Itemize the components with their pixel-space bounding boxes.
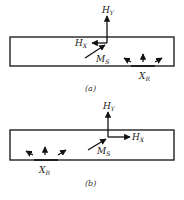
hy-label-b: HY xyxy=(102,101,116,112)
ms-label-a: MS xyxy=(95,54,109,65)
xr-label-b: XR xyxy=(38,165,50,176)
force-diagram: HY HX MS XR (a) HY HX MS xyxy=(0,0,184,200)
xr-arrows-b xyxy=(26,147,66,160)
panel-a: HY HX MS XR (a) xyxy=(10,5,174,93)
hy-label-a: HY xyxy=(101,5,115,16)
hx-label-b: HX xyxy=(131,132,145,143)
hx-label-a: HX xyxy=(74,38,88,49)
caption-b: (b) xyxy=(85,179,96,188)
ms-label-b: MS xyxy=(96,146,110,157)
panel-b: HY HX MS XR (b) xyxy=(10,101,174,188)
body-rectangle-a xyxy=(10,37,174,66)
xr-arrows-a xyxy=(124,54,162,66)
xr-label-a: XR xyxy=(138,71,150,82)
caption-a: (a) xyxy=(85,84,96,93)
body-rectangle-b xyxy=(10,130,174,160)
